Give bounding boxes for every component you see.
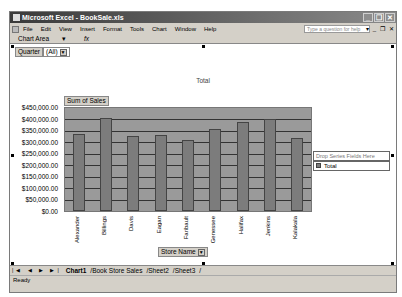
x-axis-label: Davis (128, 216, 134, 231)
bar-alexander[interactable] (73, 134, 85, 211)
legend[interactable]: Total (313, 161, 390, 171)
y-tick: $50,000.00 (25, 196, 58, 203)
menu-view[interactable]: View (59, 24, 72, 34)
excel-window: Microsoft Excel - BookSale.xls _ ❐ ✕ Fil… (9, 11, 397, 293)
name-box[interactable]: Chart Area (18, 34, 62, 43)
x-axis-label: Faribault (183, 216, 189, 239)
doc-minimize-button[interactable]: _ (373, 24, 376, 34)
doc-close-button[interactable]: ✕ (389, 24, 394, 34)
x-axis-label: Halifax (238, 216, 244, 234)
legend-entry: Total (324, 163, 337, 169)
x-axis-label: Eagan (156, 216, 162, 233)
legend-swatch (316, 163, 321, 168)
name-box-dropdown-icon[interactable]: ▾ (62, 34, 66, 43)
selection-handle[interactable] (391, 45, 394, 48)
title-bar: Microsoft Excel - BookSale.xls _ ❐ ✕ (10, 12, 396, 23)
menu-help[interactable]: Help (204, 24, 216, 34)
y-tick: $300,000.00 (22, 139, 58, 146)
chart-area[interactable]: Quarter (All)▼ Total Sum of Sales $450,0… (10, 43, 396, 265)
sheet-tabs: |◀ ◀ ▶ ▶| Chart1/ Book Store Sales/ Shee… (10, 265, 396, 274)
y-tick: $400,000.00 (22, 116, 58, 123)
menu-format[interactable]: Format (103, 24, 122, 34)
bar-faribault[interactable] (182, 140, 194, 211)
x-axis-label: Alexander (74, 216, 80, 243)
dropdown-arrow-icon[interactable]: ▼ (60, 49, 67, 56)
chart-title[interactable]: Total (10, 77, 396, 84)
y-tick: $450,000.00 (22, 104, 58, 111)
window-title: Microsoft Excel - BookSale.xls (22, 14, 124, 21)
tab-sheet3[interactable]: Sheet3 (175, 266, 196, 275)
help-dropdown-icon[interactable]: ▾ (366, 24, 369, 34)
menu-chart[interactable]: Chart (152, 24, 167, 34)
selection-handle[interactable] (202, 45, 205, 48)
menu-tools[interactable]: Tools (130, 24, 144, 34)
bar-billings[interactable] (100, 118, 112, 211)
page-field-value[interactable]: (All)▼ (43, 47, 70, 57)
y-tick: $250,000.00 (22, 150, 58, 157)
page-field-quarter[interactable]: Quarter (15, 47, 43, 57)
plot-area[interactable] (64, 107, 312, 212)
menu-file[interactable]: File (23, 24, 33, 34)
tab-navigation-icons[interactable]: |◀ ◀ ▶ ▶| (12, 266, 62, 275)
y-tick: $100,000.00 (22, 185, 58, 192)
selection-handle[interactable] (11, 45, 14, 48)
dropdown-arrow-icon[interactable]: ▼ (198, 249, 205, 256)
menu-edit[interactable]: Edit (41, 24, 51, 34)
x-axis-label: Kalakala (292, 216, 298, 239)
bar-davis[interactable] (127, 136, 139, 211)
menu-bar: File Edit View Insert Format Tools Chart… (10, 24, 396, 34)
bar-genessee[interactable] (209, 129, 221, 211)
minimize-button[interactable]: _ (363, 13, 373, 22)
selection-handle[interactable] (11, 154, 14, 157)
x-axis-label: Billings (101, 216, 107, 235)
y-tick: $350,000.00 (22, 127, 58, 134)
x-axis-label: Genessee (210, 216, 216, 243)
menu-insert[interactable]: Insert (80, 24, 95, 34)
doc-restore-button[interactable]: ❐ (380, 24, 385, 34)
selection-handle[interactable] (391, 154, 394, 157)
status-bar: Ready (10, 275, 396, 284)
category-field-button[interactable]: Store Name▼ (158, 247, 208, 257)
tab-chart1[interactable]: Chart1 (66, 266, 87, 275)
series-drop-zone[interactable]: Drop Series Fields Here (313, 151, 390, 161)
excel-icon (13, 14, 20, 21)
tab-sheet2[interactable]: Sheet2 (148, 266, 169, 275)
tab-book-store-sales[interactable]: Book Store Sales (92, 266, 142, 275)
bar-halifax[interactable] (237, 122, 249, 211)
x-axis-label: Jenkins (265, 216, 271, 236)
y-tick: $0.00 (42, 208, 58, 215)
close-button[interactable]: ✕ (385, 13, 395, 22)
bar-kalakala[interactable] (291, 138, 303, 211)
page-field-label: Quarter (18, 48, 40, 55)
menu-window[interactable]: Window (175, 24, 196, 34)
help-search-input[interactable]: Type a question for help (304, 25, 370, 33)
formula-bar: Chart Area ▾ fx (10, 34, 396, 43)
bar-jenkins[interactable] (264, 119, 276, 211)
y-tick: $200,000.00 (22, 162, 58, 169)
bar-eagan[interactable] (155, 135, 167, 211)
y-tick: $150,000.00 (22, 173, 58, 180)
data-field-button[interactable]: Sum of Sales (64, 96, 109, 106)
document-icon[interactable] (12, 26, 19, 33)
fx-icon[interactable]: fx (84, 34, 89, 43)
restore-button[interactable]: ❐ (374, 13, 384, 22)
